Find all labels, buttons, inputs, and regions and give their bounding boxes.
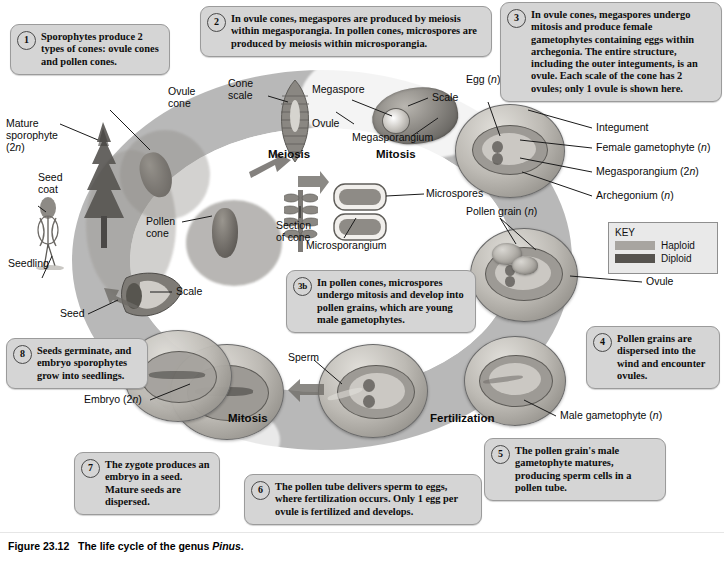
label-seed-coat: Seed coat: [38, 172, 63, 196]
callout-7-text: The zygote produces an embryo in a seed.…: [105, 459, 210, 507]
stage-meiosis: Meiosis: [268, 148, 310, 160]
label-mature-sporophyte-line1: Mature: [6, 117, 39, 129]
label-seed-coat-line1: Seed: [38, 171, 63, 183]
label-seedling: Seedling: [8, 258, 49, 270]
key-item-haploid: Haploid: [615, 240, 711, 251]
label-pollen-cone-line1: Pollen: [146, 215, 175, 227]
pollen-cone-drawing: [212, 208, 238, 258]
label-integument: Integument: [596, 122, 649, 134]
label-archegonium: Archegonium (n): [596, 190, 674, 202]
callout-3b[interactable]: 3b In pollen cones, microspores undergo …: [286, 270, 476, 333]
label-cone-scale-line1: Cone: [228, 77, 253, 89]
callout-6[interactable]: 6 The pollen tube delivers sperm to eggs…: [244, 474, 482, 525]
callout-5-text: The pollen grain's male gametophyte matu…: [515, 445, 631, 493]
callout-5[interactable]: 5 The pollen grain's male gametophyte ma…: [484, 438, 666, 501]
label-male-gametophyte: Male gametophyte (n): [560, 410, 662, 422]
fertilization-cross-section-center: [318, 344, 428, 438]
label-female-gametophyte: Female gametophyte (n): [596, 142, 710, 154]
callout-2-text: In ovule cones, megaspores are produced …: [231, 13, 477, 49]
key-label-diploid: Diploid: [661, 253, 692, 264]
figure-caption-end: .: [241, 540, 244, 552]
callout-4-number: 4: [593, 333, 612, 352]
callout-3[interactable]: 3 In ovule cones, megaspores undergo mit…: [500, 2, 722, 102]
label-embryo: Embryo (2n): [84, 394, 142, 406]
key-swatch-diploid: [615, 254, 655, 263]
label-sperm: Sperm: [288, 352, 319, 364]
callout-3-number: 3: [507, 9, 526, 28]
pollen-grain-drawing-b: [512, 256, 538, 275]
callout-3b-text: In pollen cones, microspores undergo mit…: [317, 277, 464, 325]
callout-6-number: 6: [251, 481, 270, 500]
callout-8-number: 8: [13, 345, 32, 364]
microsporangium-drawing: [332, 182, 388, 244]
key-label-haploid: Haploid: [661, 240, 695, 251]
life-cycle-figure: Mature sporophyte (2n) Seed coat Seedlin…: [0, 0, 724, 533]
stage-mitosis-top: Mitosis: [376, 148, 416, 160]
cycle-arrow-mid: [296, 170, 330, 202]
callout-1-text: Sporophytes produce 2 types of cones: ov…: [41, 31, 159, 67]
label-section-of-cone-line1: Section: [276, 219, 311, 231]
label-pollen-cone-line2: cone: [146, 227, 169, 239]
label-cone-scale: Cone scale: [228, 78, 253, 102]
callout-5-number: 5: [491, 445, 510, 464]
cycle-arrow-bottom: [286, 378, 326, 408]
label-ovule-cone: Ovule cone: [168, 86, 195, 110]
callout-4-text: Pollen grains are dispersed into the win…: [617, 333, 705, 381]
label-ovule-cone-line2: cone: [168, 97, 191, 109]
label-egg: Egg (n): [466, 74, 500, 86]
label-megasporangium-upper: Megasporangium: [352, 132, 433, 144]
label-megaspore: Megaspore: [312, 84, 365, 96]
page-divider: [0, 532, 724, 533]
callout-1-number: 1: [17, 31, 36, 50]
callout-4[interactable]: 4 Pollen grains are dispersed into the w…: [586, 326, 720, 389]
label-pollen-cone: Pollen cone: [146, 216, 175, 240]
stage-fertilization: Fertilization: [430, 412, 495, 424]
callout-2[interactable]: 2 In ovule cones, megaspores are produce…: [200, 6, 492, 57]
label-pollen-grain: Pollen grain (n): [466, 206, 537, 218]
callout-8-text: Seeds germinate, and embryo sporophytes …: [37, 345, 131, 381]
figure-number: Figure 23.12: [8, 540, 69, 552]
label-scale-left: Scale: [176, 286, 202, 298]
key-item-diploid: Diploid: [615, 253, 711, 264]
figure-caption-main: The life cycle of the genus: [78, 540, 212, 552]
label-mature-sporophyte-line2: sporophyte: [6, 129, 58, 141]
stage-mitosis-bottom: Mitosis: [228, 412, 268, 424]
figure-caption-text: The life cycle of the genus Pinus.: [72, 540, 244, 552]
key-legend: KEY Haploid Diploid: [608, 222, 718, 274]
label-seed: Seed: [60, 308, 85, 320]
callout-2-number: 2: [207, 13, 226, 32]
ovule-cross-section-upper: [455, 104, 565, 198]
label-mature-sporophyte-line3: (2n): [6, 141, 25, 153]
key-title: KEY: [615, 227, 711, 238]
label-cone-scale-line2: scale: [228, 89, 253, 101]
figure-caption: Figure 23.12 The life cycle of the genus…: [8, 540, 708, 552]
callout-6-text: The pollen tube delivers sperm to eggs, …: [275, 481, 458, 517]
callout-7-number: 7: [81, 459, 100, 478]
label-ovule-upper: Ovule: [312, 118, 339, 130]
cycle-arrow-left: [104, 276, 144, 314]
label-ovule-cone-line1: Ovule: [168, 85, 195, 97]
label-microspores: Microspores: [426, 188, 483, 200]
figure-caption-genus: Pinus: [212, 540, 241, 552]
callout-3b-number: 3b: [293, 277, 312, 296]
ovule-cone-foliage: [120, 130, 210, 220]
key-swatch-haploid: [615, 241, 655, 250]
callout-8[interactable]: 8 Seeds germinate, and embryo sporophyte…: [6, 338, 148, 389]
label-mature-sporophyte: Mature sporophyte (2n): [6, 118, 58, 153]
label-seed-coat-line2: coat: [38, 183, 58, 195]
label-microsporangium: Microsporangium: [306, 240, 387, 252]
callout-3-text: In ovule cones, megaspores undergo mitos…: [531, 9, 698, 94]
label-ovule-right: Ovule: [646, 276, 673, 288]
callout-7[interactable]: 7 The zygote produces an embryo in a see…: [74, 452, 220, 515]
callout-1[interactable]: 1 Sporophytes produce 2 types of cones: …: [10, 24, 170, 75]
label-scale-upper: Scale: [432, 92, 458, 104]
label-megasporangium-right: Megasporangium (2n): [596, 166, 699, 178]
ovule-cross-section-right: [470, 228, 578, 322]
